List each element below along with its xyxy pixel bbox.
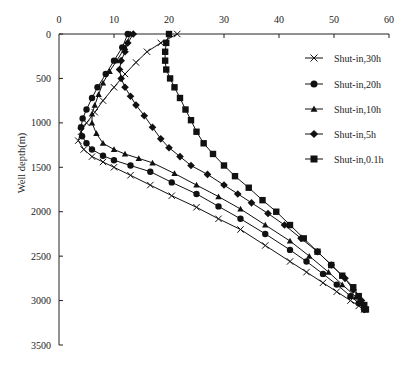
square-marker-icon bbox=[301, 235, 307, 241]
triangle-marker-icon bbox=[287, 238, 293, 244]
circle-marker-icon bbox=[287, 247, 293, 253]
circle-marker-icon bbox=[78, 124, 84, 130]
square-marker-icon bbox=[167, 75, 173, 81]
legend-item: Shut-in,0.1h bbox=[305, 154, 383, 165]
x-tick-label: 20 bbox=[164, 14, 174, 25]
triangle-marker-icon bbox=[237, 206, 243, 212]
square-marker-icon bbox=[177, 95, 183, 101]
diamond-marker-icon bbox=[127, 92, 135, 100]
triangle-marker-icon bbox=[92, 102, 98, 108]
legend-item: Shut-in,30h bbox=[305, 53, 381, 64]
triangle-marker-icon bbox=[93, 130, 99, 136]
circle-marker-icon bbox=[127, 162, 133, 168]
square-marker-icon bbox=[287, 222, 293, 228]
triangle-marker-icon bbox=[89, 120, 95, 126]
diamond-marker-icon bbox=[149, 124, 157, 132]
y-tick-label: 1000 bbox=[31, 117, 51, 128]
square-marker-icon bbox=[166, 31, 172, 37]
x-marker-icon bbox=[169, 193, 175, 199]
x-marker-icon bbox=[111, 164, 117, 170]
circle-marker-icon bbox=[89, 95, 95, 101]
circle-marker-icon bbox=[215, 203, 221, 209]
x-marker-icon bbox=[215, 216, 221, 222]
triangle-marker-icon bbox=[215, 193, 221, 199]
circle-marker-icon bbox=[100, 153, 106, 159]
series-shut-in-20h bbox=[78, 31, 368, 313]
y-tick-label: 1500 bbox=[31, 162, 51, 173]
square-marker-icon bbox=[273, 209, 279, 215]
legend-label: Shut-in,30h bbox=[334, 53, 381, 64]
square-marker-icon bbox=[259, 197, 265, 203]
triangle-marker-icon bbox=[100, 140, 106, 146]
circle-marker-icon bbox=[147, 169, 153, 175]
square-marker-icon bbox=[193, 129, 199, 135]
x-marker-icon bbox=[320, 280, 326, 286]
diamond-marker-icon bbox=[220, 181, 228, 189]
x-marker-icon bbox=[303, 269, 309, 275]
y-ticks: 0500100015002000250030003500 bbox=[31, 29, 63, 351]
x-marker-icon bbox=[144, 49, 150, 55]
series-group bbox=[75, 30, 369, 313]
circle-marker-icon bbox=[94, 84, 100, 90]
diamond-marker-icon bbox=[234, 190, 242, 198]
triangle-marker-icon bbox=[262, 222, 268, 228]
y-tick-label: 2000 bbox=[31, 206, 51, 217]
x-marker-icon bbox=[81, 146, 87, 152]
circle-marker-icon bbox=[169, 179, 175, 185]
legend: Shut-in,30hShut-in,20hShut-in,10hShut-in… bbox=[305, 53, 383, 165]
legend-label: Shut-in,5h bbox=[334, 129, 376, 140]
legend-label: Shut-in,10h bbox=[334, 104, 381, 115]
circle-marker-icon bbox=[320, 271, 326, 277]
series-shut-in-0-1h bbox=[162, 31, 369, 313]
x-marker-icon bbox=[262, 242, 268, 248]
x-marker-icon bbox=[100, 97, 106, 103]
y-axis-title: Well depth(m) bbox=[16, 132, 28, 193]
x-tick-label: 10 bbox=[109, 14, 119, 25]
circle-marker-icon bbox=[303, 258, 309, 264]
x-marker-icon bbox=[89, 153, 95, 159]
y-tick-label: 500 bbox=[36, 73, 51, 84]
circle-marker-icon bbox=[79, 133, 85, 139]
square-marker-icon bbox=[162, 49, 168, 55]
series-shut-in-30h bbox=[75, 31, 367, 313]
circle-marker-icon bbox=[79, 115, 85, 121]
diamond-marker-icon bbox=[248, 199, 256, 207]
x-marker-icon bbox=[193, 204, 199, 210]
square-marker-icon bbox=[363, 306, 369, 312]
circle-marker-icon bbox=[237, 216, 243, 222]
x-tick-label: 50 bbox=[329, 14, 339, 25]
legend-label: Shut-in,0.1h bbox=[334, 154, 383, 165]
square-marker-icon bbox=[182, 106, 188, 112]
x-marker-icon bbox=[133, 59, 139, 65]
square-marker-icon bbox=[210, 151, 216, 157]
circle-marker-icon bbox=[193, 191, 199, 197]
y-tick-label: 3000 bbox=[31, 295, 51, 306]
circle-marker-icon bbox=[83, 140, 89, 146]
square-marker-icon bbox=[221, 162, 227, 168]
square-marker-icon bbox=[339, 272, 345, 278]
x-marker-icon bbox=[111, 84, 117, 90]
legend-item: Shut-in,20h bbox=[305, 79, 381, 90]
square-marker-icon bbox=[163, 40, 169, 46]
depth-profile-chart: 0102030405060 05001000150020002500300035… bbox=[0, 0, 413, 370]
plot-axes: 0102030405060 05001000150020002500300035… bbox=[16, 14, 394, 351]
square-marker-icon bbox=[163, 66, 169, 72]
triangle-marker-icon bbox=[193, 182, 199, 188]
square-marker-icon bbox=[232, 173, 238, 179]
square-marker-icon bbox=[328, 262, 334, 268]
square-marker-icon bbox=[314, 249, 320, 255]
triangle-marker-icon bbox=[111, 146, 117, 152]
y-tick-label: 3500 bbox=[31, 340, 51, 351]
circle-marker-icon bbox=[311, 81, 318, 88]
x-marker-icon bbox=[334, 288, 340, 294]
circle-marker-icon bbox=[89, 146, 95, 152]
square-marker-icon bbox=[188, 117, 194, 123]
x-marker-icon bbox=[127, 172, 133, 178]
square-marker-icon bbox=[162, 57, 168, 63]
square-marker-icon bbox=[246, 185, 252, 191]
triangle-marker-icon bbox=[95, 91, 101, 97]
legend-item: Shut-in,10h bbox=[305, 104, 381, 115]
triangle-marker-icon bbox=[122, 151, 128, 157]
series-shut-in-5h bbox=[116, 30, 368, 313]
diamond-marker-icon bbox=[310, 130, 318, 138]
